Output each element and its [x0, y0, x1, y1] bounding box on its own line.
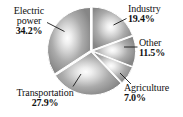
slice-value-other: 11.5%: [139, 48, 183, 58]
slice-value-electric-power: 34.2%: [2, 26, 56, 36]
pie-chart-figure: Electric power 34.2% Industry 19.4% Othe…: [0, 0, 183, 117]
slice-label-other: Other 11.5%: [139, 38, 183, 58]
slice-value-transportation: 27.9%: [1, 98, 89, 108]
slice-label-transportation: Transportation 27.9%: [1, 88, 89, 108]
slice-value-industry: 19.4%: [128, 14, 182, 24]
slice-label-industry: Industry 19.4%: [128, 4, 182, 24]
slice-value-agriculture: 7.0%: [124, 93, 182, 103]
slice-label-agriculture: Agriculture 7.0%: [124, 83, 182, 103]
slice-label-electric-power: Electric power 34.2%: [2, 6, 56, 37]
